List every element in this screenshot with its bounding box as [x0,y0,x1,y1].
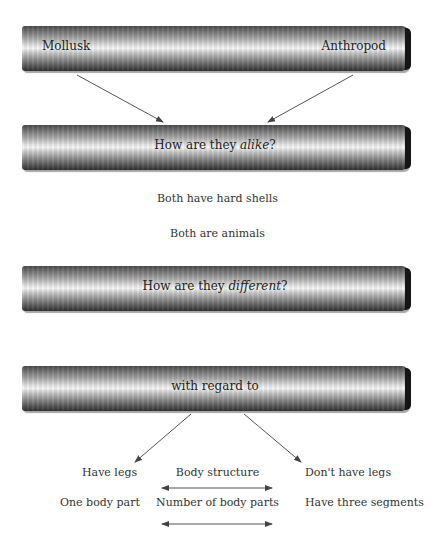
alike-emphasis: alike [240,138,269,152]
different-question: How are they different? [22,266,408,311]
compare-bar: Mollusk Anthropod [22,26,408,71]
different-question-prefix: How are they [143,279,229,293]
alike-question-suffix: ? [269,138,275,152]
difference-right: Have three segments [305,496,424,509]
mollusk-label: Mollusk [42,26,90,71]
difference-right: Don't have legs [305,466,391,479]
different-question-suffix: ? [281,279,287,293]
alike-bar: How are they alike? [22,125,408,170]
similarity-item: Both are animals [0,227,435,240]
regard-bar: with regard to [22,366,408,411]
arrow-mollusk-to-alike [77,75,163,122]
regard-label: with regard to [22,366,408,411]
alike-question-prefix: How are they [154,138,240,152]
alike-question: How are they alike? [22,125,408,170]
arrow-anthropod-to-alike [268,75,353,122]
anthropod-label: Anthropod [322,26,387,71]
different-bar: How are they different? [22,266,408,311]
similarity-item: Both have hard shells [0,192,435,205]
arrow-to-dont-have-legs [244,414,301,462]
arrow-to-have-legs [135,414,191,462]
different-emphasis: different [228,279,281,293]
